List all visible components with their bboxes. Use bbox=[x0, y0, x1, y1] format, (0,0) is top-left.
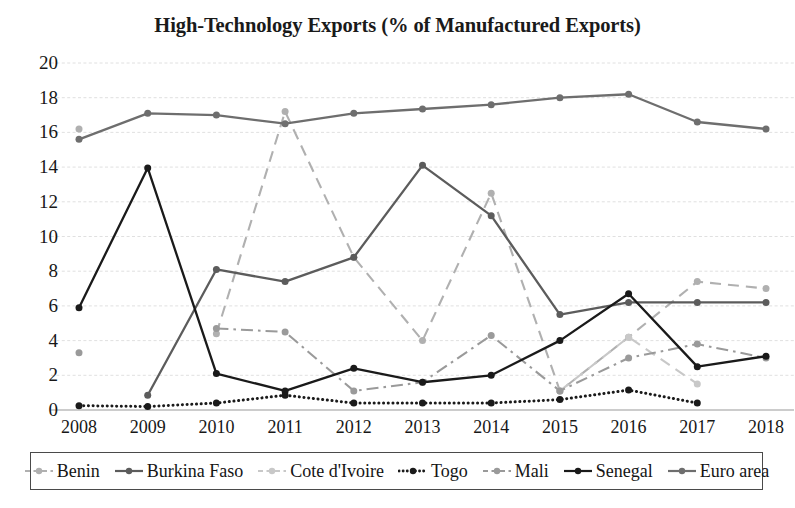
series-benin bbox=[76, 108, 770, 394]
data-point bbox=[694, 400, 701, 407]
data-point bbox=[350, 110, 357, 117]
data-point bbox=[556, 337, 563, 344]
data-point bbox=[488, 101, 495, 108]
legend-swatch-mali bbox=[482, 464, 512, 478]
data-point bbox=[213, 325, 220, 332]
data-point bbox=[350, 254, 357, 261]
data-point bbox=[763, 285, 770, 292]
data-point bbox=[556, 311, 563, 318]
legend-item-senegal[interactable]: Senegal bbox=[556, 461, 660, 482]
data-point bbox=[556, 94, 563, 101]
data-point bbox=[350, 387, 357, 394]
data-point bbox=[76, 349, 83, 356]
legend-swatch-benin bbox=[24, 464, 54, 478]
chart-title: High-Technology Exports (% of Manufactur… bbox=[0, 14, 795, 37]
y-tick-label: 4 bbox=[18, 330, 58, 352]
data-point bbox=[763, 125, 770, 132]
legend-item-burkina-faso[interactable]: Burkina Faso bbox=[107, 461, 251, 482]
legend-label: Burkina Faso bbox=[147, 461, 244, 482]
series-euro-area bbox=[76, 91, 770, 143]
data-point bbox=[625, 334, 632, 341]
data-point bbox=[694, 363, 701, 370]
legend-label: Benin bbox=[57, 461, 100, 482]
legend-item-benin[interactable]: Benin bbox=[17, 461, 107, 482]
series-senegal bbox=[76, 164, 770, 394]
data-point bbox=[625, 387, 632, 394]
data-point bbox=[625, 290, 632, 297]
data-point bbox=[694, 118, 701, 125]
data-point bbox=[282, 108, 289, 115]
data-point bbox=[488, 332, 495, 339]
y-tick-label: 18 bbox=[18, 87, 58, 109]
series-burkina-faso bbox=[144, 162, 769, 399]
series-line bbox=[79, 390, 697, 406]
data-point bbox=[625, 299, 632, 306]
x-tick-label: 2018 bbox=[726, 417, 795, 438]
legend-swatch-cote-d-ivoire bbox=[257, 464, 287, 478]
data-point bbox=[144, 110, 151, 117]
data-point bbox=[419, 105, 426, 112]
legend-label: Euro area bbox=[700, 461, 769, 482]
data-point bbox=[488, 400, 495, 407]
data-point bbox=[76, 125, 83, 132]
series-layer bbox=[76, 91, 770, 410]
data-point bbox=[763, 353, 770, 360]
data-point bbox=[76, 304, 83, 311]
chart-figure: High-Technology Exports (% of Manufactur… bbox=[0, 0, 795, 508]
y-tick-label: 10 bbox=[18, 226, 58, 248]
legend-item-togo[interactable]: Togo bbox=[391, 461, 475, 482]
series-line bbox=[216, 112, 766, 391]
legend-label: Senegal bbox=[596, 461, 653, 482]
data-point bbox=[625, 91, 632, 98]
legend-item-cote-d-ivoire[interactable]: Cote d'Ivoire bbox=[250, 461, 391, 482]
data-point bbox=[556, 396, 563, 403]
legend-item-mali[interactable]: Mali bbox=[475, 461, 556, 482]
data-point bbox=[625, 354, 632, 361]
data-point bbox=[419, 337, 426, 344]
data-point bbox=[213, 112, 220, 119]
y-tick-label: 16 bbox=[18, 121, 58, 143]
chart-canvas bbox=[65, 63, 780, 410]
series-line bbox=[148, 165, 766, 395]
legend-label: Cote d'Ivoire bbox=[290, 461, 384, 482]
data-point bbox=[488, 372, 495, 379]
legend-swatch-senegal bbox=[563, 464, 593, 478]
data-point bbox=[213, 266, 220, 273]
data-point bbox=[282, 278, 289, 285]
data-point bbox=[144, 392, 151, 399]
data-point bbox=[144, 164, 151, 171]
chart-legend: BeninBurkina FasoCote d'IvoireTogoMaliSe… bbox=[30, 452, 763, 490]
y-tick-label: 2 bbox=[18, 364, 58, 386]
legend-label: Togo bbox=[431, 461, 468, 482]
data-point bbox=[763, 299, 770, 306]
data-point bbox=[694, 278, 701, 285]
data-point bbox=[694, 341, 701, 348]
data-point bbox=[144, 403, 151, 410]
series-togo bbox=[76, 387, 701, 410]
legend-swatch-burkina-faso bbox=[114, 464, 144, 478]
y-tick-label: 20 bbox=[18, 52, 58, 74]
data-point bbox=[488, 212, 495, 219]
legend-swatch-euro-area bbox=[667, 464, 697, 478]
data-point bbox=[350, 400, 357, 407]
data-point bbox=[76, 402, 83, 409]
data-point bbox=[213, 400, 220, 407]
data-point bbox=[694, 299, 701, 306]
data-point bbox=[488, 190, 495, 197]
y-tick-label: 14 bbox=[18, 156, 58, 178]
legend-item-euro-area[interactable]: Euro area bbox=[660, 461, 776, 482]
series-cote-d-ivoire bbox=[556, 334, 700, 395]
data-point bbox=[419, 162, 426, 169]
data-point bbox=[419, 379, 426, 386]
data-point bbox=[282, 328, 289, 335]
plot-area bbox=[65, 63, 780, 410]
data-point bbox=[282, 387, 289, 394]
data-point bbox=[419, 400, 426, 407]
data-point bbox=[213, 370, 220, 377]
data-point bbox=[694, 380, 701, 387]
legend-swatch-togo bbox=[398, 464, 428, 478]
legend-label: Mali bbox=[515, 461, 549, 482]
data-point bbox=[282, 120, 289, 127]
y-tick-label: 6 bbox=[18, 295, 58, 317]
data-point bbox=[350, 365, 357, 372]
